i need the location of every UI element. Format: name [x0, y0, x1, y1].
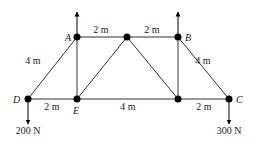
joint-B: [175, 34, 182, 41]
dimension-label: 4 m: [195, 55, 211, 66]
load-value-C: 300 N: [217, 125, 242, 136]
joint-label-A: A: [64, 32, 72, 43]
truss-members: [28, 37, 229, 99]
truss-nodes: [25, 34, 233, 103]
load-value-D: 200 N: [16, 125, 41, 136]
load-labels: 200 N300 N: [16, 125, 242, 136]
joint-D: [25, 96, 32, 103]
joint-label-C: C: [236, 94, 243, 105]
dimension-label: 4 m: [25, 55, 41, 66]
dimension-label: 2 m: [93, 24, 109, 35]
joint-label-B: B: [185, 32, 191, 43]
dimension-label: 4 m: [120, 101, 136, 112]
member-EG: [77, 37, 127, 99]
member-DA: [28, 37, 77, 99]
joint-C: [226, 96, 233, 103]
dimension-label: 2 m: [196, 101, 212, 112]
joint-F: [175, 96, 182, 103]
member-BC: [178, 37, 229, 99]
joint-G: [124, 34, 131, 41]
member-GF: [127, 37, 178, 99]
joint-label-E: E: [72, 105, 79, 116]
dimension-label: 2 m: [44, 101, 60, 112]
joint-E: [74, 96, 81, 103]
joint-A: [74, 34, 81, 41]
dimension-label: 2 m: [144, 24, 160, 35]
joint-label-D: D: [12, 94, 21, 105]
truss-diagram: 2 m2 m4 m4 m2 m4 m2 m DECAB 200 N300 N: [0, 0, 260, 144]
